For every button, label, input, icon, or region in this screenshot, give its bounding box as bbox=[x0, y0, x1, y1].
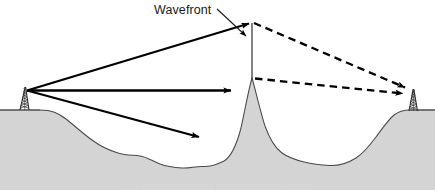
terrain-fill bbox=[0, 78, 435, 190]
diagram-canvas bbox=[0, 0, 435, 190]
ray-to-wavefront-apex bbox=[27, 24, 249, 91]
wavefront-label: Wavefront bbox=[154, 3, 211, 17]
figure-caption: (a) Path profile illustrating diffractio… bbox=[0, 181, 435, 190]
dashed-ray-group bbox=[254, 23, 405, 94]
terrain-group bbox=[0, 78, 435, 190]
receiver-tower bbox=[409, 89, 418, 111]
diffracted-ray-lower bbox=[255, 79, 403, 94]
diffracted-ray-upper bbox=[254, 23, 405, 88]
path-profile-diagram: Wavefront (a) Path profile illustrating … bbox=[0, 0, 435, 190]
